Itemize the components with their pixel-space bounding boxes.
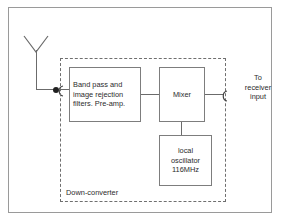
block-bandpass-filter-preamp: Band pass and image rejection filters. P… bbox=[69, 67, 141, 122]
wire-filter-to-mixer bbox=[141, 94, 159, 95]
block-local-oscillator: local oscillator 116MHz bbox=[159, 135, 212, 186]
antenna-feed-stem bbox=[36, 50, 37, 90]
block-filter-label-line3: filters. Pre-amp. bbox=[73, 99, 125, 108]
output-label-line2: receiver bbox=[245, 83, 271, 92]
diagram-canvas: Band pass and image rejection filters. P… bbox=[0, 0, 282, 224]
block-oscillator-label-line3: 116MHz bbox=[172, 165, 199, 174]
block-filter-label-line2: image rejection bbox=[73, 90, 123, 99]
block-oscillator-label-line2: oscillator bbox=[171, 156, 200, 165]
output-label-line1: To bbox=[254, 73, 262, 82]
output-label-line3: input bbox=[250, 92, 266, 101]
block-mixer: Mixer bbox=[159, 67, 205, 122]
wire-mixer-to-oscillator bbox=[181, 122, 182, 135]
output-connector-icon bbox=[221, 88, 229, 100]
block-filter-label-line1: Band pass and bbox=[73, 80, 122, 89]
antenna-icon bbox=[21, 35, 53, 55]
block-oscillator-label: local oscillator 116MHz bbox=[171, 146, 200, 175]
block-filter-label: Band pass and image rejection filters. P… bbox=[73, 80, 125, 109]
block-mixer-label: Mixer bbox=[173, 90, 191, 100]
figure-frame: Band pass and image rejection filters. P… bbox=[8, 7, 272, 213]
output-destination-label: To receiver input bbox=[233, 73, 282, 102]
block-oscillator-label-line1: local bbox=[178, 146, 193, 155]
wire-input-to-filter bbox=[59, 89, 69, 90]
down-converter-label: Down-converter bbox=[66, 188, 118, 198]
